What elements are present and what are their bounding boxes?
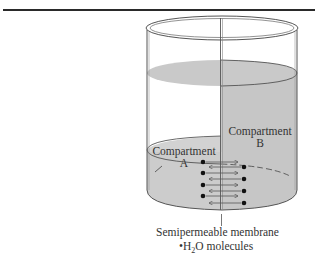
compartment-a-label: Compartment A <box>148 145 220 169</box>
compartment-b-label-line1: Compartment <box>223 125 297 137</box>
membrane-caption: Semipermeable membrane <box>156 226 279 238</box>
compartment-a-label-line2: A <box>148 157 220 169</box>
compartment-a-label-line1: Compartment <box>148 145 220 157</box>
legend-h2o: •H2O molecules <box>179 240 253 255</box>
compartment-b-label: Compartment B <box>223 125 297 149</box>
compartment-b-label-line2: B <box>223 137 297 149</box>
legend-text-rest: O molecules <box>195 240 253 252</box>
